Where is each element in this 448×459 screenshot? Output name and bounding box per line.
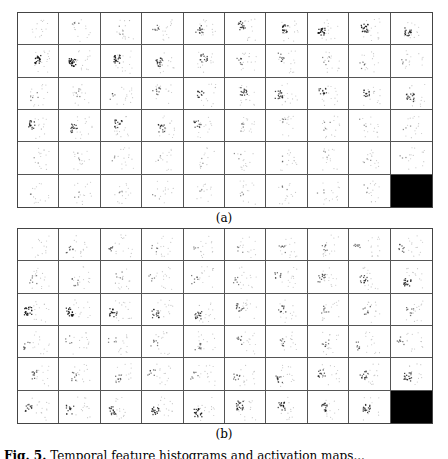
- activation-cell: [266, 326, 307, 358]
- activation-cell: [391, 13, 432, 45]
- activation-cell: [101, 142, 142, 174]
- activation-cell: [349, 78, 390, 110]
- activation-cell: [101, 229, 142, 261]
- activation-cell: [225, 13, 266, 45]
- activation-cell: [59, 326, 100, 358]
- activation-cell: [225, 45, 266, 77]
- activation-cell: [266, 229, 307, 261]
- activation-cell: [18, 78, 59, 110]
- activation-cell: [184, 45, 225, 77]
- activation-cell: [101, 261, 142, 293]
- activation-cell: [266, 78, 307, 110]
- activation-cell: [101, 391, 142, 423]
- activation-cell: [18, 261, 59, 293]
- activation-cell: [391, 294, 432, 326]
- activation-cell: [18, 45, 59, 77]
- activation-cell: [391, 45, 432, 77]
- activation-cell: [59, 294, 100, 326]
- activation-cell: [18, 110, 59, 142]
- activation-cell: [266, 358, 307, 390]
- activation-cell: [18, 142, 59, 174]
- activation-cell: [59, 110, 100, 142]
- activation-cell: [184, 142, 225, 174]
- activation-cell: [142, 358, 183, 390]
- activation-cell: [308, 13, 349, 45]
- activation-cell: [349, 142, 390, 174]
- activation-cell: [308, 45, 349, 77]
- activation-cell: [18, 175, 59, 207]
- activation-cell: [225, 391, 266, 423]
- activation-cell: [225, 261, 266, 293]
- activation-cell: [225, 229, 266, 261]
- activation-cell: [184, 13, 225, 45]
- panel-a-label: (a): [0, 211, 448, 225]
- activation-cell: [142, 391, 183, 423]
- activation-cell: [142, 175, 183, 207]
- activation-cell: [225, 78, 266, 110]
- activation-cell: [184, 391, 225, 423]
- activation-cell: [142, 326, 183, 358]
- activation-cell: [349, 261, 390, 293]
- activation-cell: [308, 175, 349, 207]
- activation-cell: [101, 78, 142, 110]
- activation-cell: [142, 261, 183, 293]
- activation-cell: [308, 294, 349, 326]
- activation-cell: [59, 142, 100, 174]
- activation-cell: [101, 45, 142, 77]
- activation-cell: [308, 358, 349, 390]
- activation-cell: [59, 45, 100, 77]
- activation-cell: [18, 326, 59, 358]
- activation-cell: [184, 326, 225, 358]
- activation-cell: [59, 13, 100, 45]
- activation-cell: [142, 142, 183, 174]
- activation-cell: [101, 13, 142, 45]
- activation-cell: [101, 175, 142, 207]
- activation-cell: [184, 261, 225, 293]
- activation-cell: [184, 78, 225, 110]
- activation-cell: [18, 13, 59, 45]
- activation-cell: [142, 45, 183, 77]
- activation-cell: [225, 294, 266, 326]
- activation-cell: [308, 110, 349, 142]
- activation-cell: [101, 294, 142, 326]
- activation-cell: [59, 229, 100, 261]
- activation-cell: [308, 229, 349, 261]
- activation-cell: [266, 175, 307, 207]
- activation-cell: [101, 358, 142, 390]
- activation-cell: [391, 175, 432, 207]
- activation-cell: [142, 110, 183, 142]
- activation-cell: [266, 142, 307, 174]
- activation-cell: [225, 358, 266, 390]
- activation-cell: [349, 229, 390, 261]
- activation-cell: [349, 45, 390, 77]
- activation-cell: [391, 142, 432, 174]
- activation-cell: [184, 229, 225, 261]
- activation-cell: [308, 391, 349, 423]
- activation-cell: [142, 13, 183, 45]
- activation-cell: [391, 391, 432, 423]
- activation-cell: [59, 391, 100, 423]
- activation-cell: [349, 326, 390, 358]
- activation-cell: [18, 358, 59, 390]
- activation-cell: [59, 261, 100, 293]
- activation-cell: [184, 358, 225, 390]
- panel-a-grid: [17, 12, 433, 208]
- activation-cell: [349, 391, 390, 423]
- activation-cell: [142, 78, 183, 110]
- activation-cell: [391, 358, 432, 390]
- activation-cell: [184, 175, 225, 207]
- caption-text: Temporal feature histograms and activati…: [50, 449, 365, 459]
- activation-cell: [18, 229, 59, 261]
- activation-cell: [391, 110, 432, 142]
- activation-cell: [142, 294, 183, 326]
- activation-cell: [18, 294, 59, 326]
- activation-cell: [391, 261, 432, 293]
- activation-cell: [349, 13, 390, 45]
- activation-cell: [59, 358, 100, 390]
- activation-cell: [225, 142, 266, 174]
- activation-cell: [266, 391, 307, 423]
- activation-cell: [225, 110, 266, 142]
- activation-cell: [349, 175, 390, 207]
- activation-cell: [142, 229, 183, 261]
- activation-cell: [308, 261, 349, 293]
